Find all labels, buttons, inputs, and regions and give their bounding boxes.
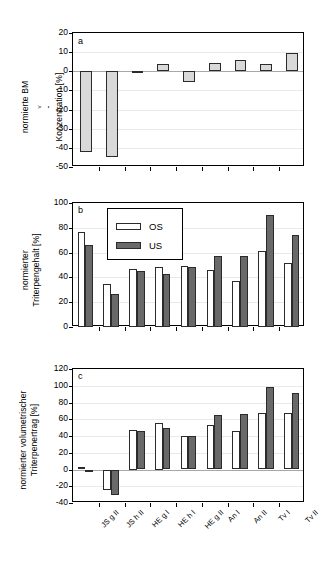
bar-us	[188, 267, 196, 327]
y-tick-label: -30	[56, 123, 68, 133]
y-axis-tick	[69, 71, 73, 72]
bar-group	[125, 33, 151, 165]
bar-value	[235, 60, 247, 71]
bar-us	[188, 436, 196, 470]
bar-us	[85, 245, 93, 327]
bar-os	[181, 266, 189, 327]
panel-c-label: c	[78, 371, 83, 381]
legend-label-os: OS	[149, 221, 163, 232]
panel-b-plot-area: OS US	[72, 202, 304, 326]
bar-os	[129, 269, 137, 327]
y-tick-label: -20	[56, 104, 68, 114]
y-tick-label: 40	[59, 430, 68, 440]
x-axis-category-label: Tv I	[277, 508, 292, 523]
x-axis-category-label: JS h II	[125, 508, 146, 529]
y-axis-tick	[69, 253, 73, 254]
x-axis-category-label: JS g II	[99, 508, 120, 529]
bar-value	[286, 53, 298, 71]
y-tick-label: 0	[63, 464, 68, 474]
panel-b: normierter Triterpengehalt [%] 100806040…	[0, 188, 329, 358]
bar-us	[240, 414, 248, 470]
y-tick-label: -20	[56, 480, 68, 490]
bar-group	[73, 203, 99, 325]
panel-b-y-tick-labels: 100806040200	[40, 202, 68, 326]
bar-us	[214, 256, 222, 327]
legend-swatch-us-icon	[116, 242, 141, 249]
panel-a: normierte BMv- Konzentration [%] 20100-1…	[0, 0, 329, 190]
bar-group	[176, 369, 202, 501]
y-axis-tick	[69, 90, 73, 91]
y-tick-label: -10	[56, 84, 68, 94]
y-tick-label: 20	[59, 296, 68, 306]
bar-os	[284, 263, 292, 327]
panel-a-y-tick-labels: 20100-10-20-30-40-50	[40, 32, 68, 166]
y-axis-tick	[69, 277, 73, 278]
bar-group	[150, 369, 176, 501]
bar-us	[240, 256, 248, 327]
x-axis-category-label: HE g I	[150, 508, 171, 529]
y-tick-label: 20	[59, 447, 68, 457]
bar-group	[202, 203, 228, 325]
bar-group	[253, 369, 279, 501]
bar-value	[80, 71, 92, 151]
bar-group	[202, 369, 228, 501]
panel-b-label: b	[78, 205, 83, 215]
bar-value	[209, 63, 221, 72]
y-tick-label: 0	[63, 321, 68, 331]
bar-os	[258, 251, 266, 327]
bar-os	[232, 281, 240, 328]
bar-os	[78, 232, 86, 327]
panel-c-y-tick-labels: 120100806040200-20-40	[40, 368, 68, 502]
bar-group	[253, 203, 279, 325]
bar-group	[73, 33, 99, 165]
y-axis-tick	[69, 453, 73, 454]
panel-c-bars	[73, 369, 303, 501]
panel-a-label: a	[78, 36, 83, 46]
bar-os	[129, 430, 137, 470]
bar-us	[266, 387, 274, 469]
bar-value	[183, 71, 195, 82]
bar-us	[163, 274, 171, 327]
panel-a-bars	[73, 33, 303, 165]
bar-group	[150, 33, 176, 165]
panel-b-y-axis-title: normierter Triterpengehalt [%]	[20, 200, 42, 340]
legend: OS US	[107, 208, 183, 260]
y-tick-label: 60	[59, 413, 68, 423]
bar-group	[228, 369, 254, 501]
y-tick-label: 60	[59, 247, 68, 257]
legend-swatch-os-icon	[116, 223, 141, 230]
bar-us	[266, 215, 274, 327]
bar-group	[228, 203, 254, 325]
bar-value	[132, 71, 144, 73]
bar-us	[163, 428, 171, 469]
bar-value	[260, 64, 272, 72]
bar-os	[258, 413, 266, 470]
panel-c-y-axis-title-line2: Triterpenertrag [%]	[29, 364, 40, 516]
bar-us	[137, 431, 145, 469]
bar-os	[181, 436, 189, 470]
bar-group	[279, 369, 305, 501]
bar-group	[99, 33, 125, 165]
y-axis-tick	[69, 327, 73, 328]
bar-value	[106, 71, 118, 157]
bar-os	[78, 467, 86, 470]
legend-item-us: US	[116, 240, 162, 251]
x-axis-category-label: Tv II	[303, 508, 320, 525]
bar-group	[279, 203, 305, 325]
y-tick-label: 100	[54, 380, 68, 390]
legend-label-us: US	[149, 240, 162, 251]
bar-os	[155, 423, 163, 469]
bar-us	[85, 470, 93, 472]
y-axis-tick	[69, 52, 73, 53]
y-axis-tick	[69, 33, 73, 34]
bar-group	[253, 33, 279, 165]
y-tick-label: -40	[56, 497, 68, 507]
y-axis-tick	[69, 386, 73, 387]
panel-a-plot-area	[72, 32, 304, 166]
panel-b-y-axis-title-line1: normierter	[20, 200, 31, 340]
y-axis-tick	[69, 403, 73, 404]
bar-os	[155, 267, 163, 327]
bar-os	[103, 470, 111, 491]
bar-value	[157, 64, 169, 72]
y-tick-label: 80	[59, 222, 68, 232]
